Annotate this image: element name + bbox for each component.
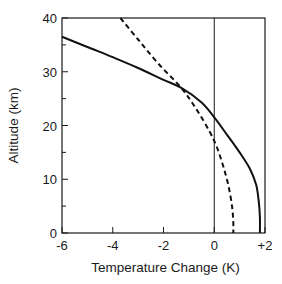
- y-tick-label: 10: [43, 172, 57, 187]
- plot-frame: [62, 18, 265, 233]
- y-tick-label: 20: [43, 119, 57, 134]
- dashed-curve: [120, 18, 233, 233]
- plot-area: -6-4-20+2 010203040: [43, 11, 273, 253]
- x-axis-ticks: -6-4-20+2: [56, 227, 272, 253]
- y-tick-label: 0: [50, 226, 57, 241]
- x-tick-label: +2: [258, 238, 273, 253]
- x-tick-label: -4: [107, 238, 119, 253]
- y-tick-label: 30: [43, 65, 57, 80]
- x-tick-label: 0: [211, 238, 218, 253]
- x-tick-label: -2: [158, 238, 170, 253]
- y-axis-label: Altitude (km): [6, 88, 21, 164]
- y-axis-ticks: 010203040: [43, 11, 68, 241]
- y-tick-label: 40: [43, 11, 57, 26]
- x-axis-label: Temperature Change (K): [91, 260, 240, 275]
- chart: -6-4-20+2 010203040 Temperature Change (…: [0, 0, 282, 284]
- x-tick-label: -6: [56, 238, 68, 253]
- data-series: [62, 18, 260, 233]
